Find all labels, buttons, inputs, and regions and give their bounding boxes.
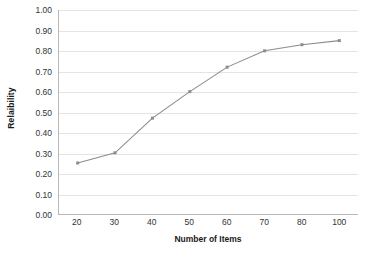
x-tick-label: 70 [260, 217, 269, 227]
y-axis-title-label: Relaibility [6, 87, 16, 128]
x-tick-label: 60 [222, 217, 231, 227]
data-point-marker [263, 49, 266, 52]
x-tick-label: 30 [110, 217, 119, 227]
x-tick-label: 100 [332, 217, 346, 227]
plot-area [58, 10, 358, 215]
data-point-marker [151, 117, 154, 120]
y-tick-label: 0.60 [35, 87, 52, 97]
series-line [78, 41, 340, 163]
data-point-marker [76, 162, 79, 165]
x-tick-label: 20 [72, 217, 81, 227]
y-tick-label: 0.30 [35, 149, 52, 159]
y-tick-label: 1.00 [35, 5, 52, 15]
y-tick-label: 0.80 [35, 46, 52, 56]
data-point-marker [188, 90, 191, 93]
y-tick-label: 0.00 [35, 210, 52, 220]
data-series [59, 10, 358, 214]
data-point-marker [300, 43, 303, 46]
reliability-line-chart: Relaibility 0.000.100.200.300.400.500.60… [0, 0, 373, 258]
data-point-marker [114, 151, 117, 154]
data-point-marker [226, 66, 229, 69]
y-tick-label: 0.70 [35, 67, 52, 77]
x-axis-title: Number of Items [58, 234, 358, 244]
y-axis-title: Relaibility [0, 0, 22, 215]
y-tick-label: 0.50 [35, 108, 52, 118]
y-tick-label: 0.90 [35, 26, 52, 36]
x-tick-label: 50 [185, 217, 194, 227]
x-tick-label: 40 [147, 217, 156, 227]
y-tick-label: 0.40 [35, 128, 52, 138]
y-tick-label: 0.10 [35, 190, 52, 200]
y-tick-label: 0.20 [35, 169, 52, 179]
y-axis-tick-labels: 0.000.100.200.300.400.500.600.700.800.90… [22, 10, 55, 215]
data-point-marker [338, 39, 341, 42]
x-axis-tick-labels: 20304050607080100 [58, 217, 358, 231]
x-tick-label: 80 [297, 217, 306, 227]
